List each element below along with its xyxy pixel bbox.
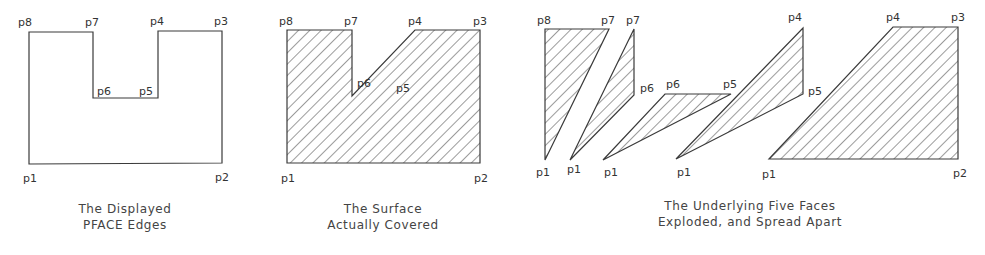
- label-p1: p1: [281, 172, 295, 185]
- figure-displayed-edges: p8 p7 p4 p3 p6 p5 p1 p2 The Displayed PF…: [18, 15, 229, 232]
- caption-line-2: PFACE Edges: [83, 218, 167, 232]
- label-p1: p1: [762, 168, 776, 181]
- label-p4: p4: [788, 11, 802, 24]
- label-p2: p2: [474, 172, 488, 185]
- label-p6: p6: [666, 78, 680, 91]
- label-p1: p1: [23, 172, 37, 185]
- label-p5: p5: [396, 82, 410, 95]
- label-p8: p8: [279, 15, 293, 28]
- label-p4: p4: [150, 15, 164, 28]
- label-p6: p6: [97, 85, 111, 98]
- label-p6: p6: [640, 82, 654, 95]
- label-p4: p4: [408, 15, 422, 28]
- pface-outline: [29, 31, 222, 164]
- label-p3: p3: [214, 15, 228, 28]
- label-p7: p7: [626, 14, 640, 27]
- caption-line-1: The Displayed: [77, 202, 171, 216]
- caption-line-1: The Surface: [343, 202, 422, 216]
- caption-line-1: The Underlying Five Faces: [663, 199, 835, 213]
- figure-surface-covered: p8 p7 p4 p3 p6 p5 p1 p2 The Surface Actu…: [279, 15, 488, 232]
- label-p1: p1: [604, 166, 618, 179]
- label-p3: p3: [951, 11, 965, 24]
- covered-surface: [287, 30, 480, 163]
- label-p5: p5: [139, 85, 153, 98]
- label-p2: p2: [215, 171, 229, 184]
- label-p5: p5: [723, 78, 737, 91]
- face-1: [545, 29, 609, 160]
- label-p8: p8: [18, 16, 32, 29]
- label-p5: p5: [808, 85, 822, 98]
- caption-line-2: Actually Covered: [327, 218, 438, 232]
- label-p7: p7: [601, 14, 615, 27]
- label-p8: p8: [537, 14, 551, 27]
- label-p7: p7: [344, 15, 358, 28]
- label-p1: p1: [536, 166, 550, 179]
- label-p4: p4: [886, 11, 900, 24]
- pface-diagram: p8 p7 p4 p3 p6 p5 p1 p2 The Displayed PF…: [0, 0, 985, 255]
- label-p3: p3: [473, 15, 487, 28]
- label-p6: p6: [357, 77, 371, 90]
- label-p1: p1: [567, 163, 581, 176]
- caption-line-2: Exploded, and Spread Apart: [658, 215, 842, 229]
- label-p7: p7: [85, 16, 99, 29]
- label-p2: p2: [953, 167, 967, 180]
- figure-exploded-faces: p8 p7 p1 p7 p6 p1 p6 p5 p1 p4 p5 p1 p4 p…: [536, 11, 967, 229]
- label-p1: p1: [677, 166, 691, 179]
